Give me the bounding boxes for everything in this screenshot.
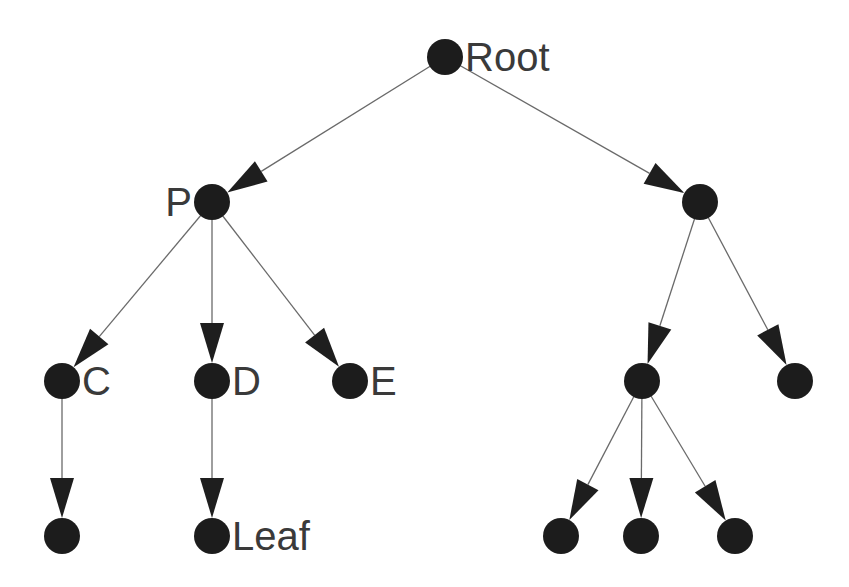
nodes-layer xyxy=(44,39,813,554)
node-c1 xyxy=(44,518,80,554)
node-label-c: C xyxy=(82,359,111,403)
edge-p-e xyxy=(212,202,315,335)
node-d xyxy=(194,363,230,399)
node-e xyxy=(332,363,368,399)
arrowhead-icon xyxy=(569,479,598,520)
node-r2 xyxy=(624,363,660,399)
node-r3 xyxy=(777,363,813,399)
arrowhead-icon xyxy=(695,480,726,520)
node-label-d: D xyxy=(232,359,261,403)
node-r5 xyxy=(623,518,659,554)
node-label-e: E xyxy=(370,359,397,403)
arrowhead-icon xyxy=(200,323,224,363)
arrowhead-icon xyxy=(227,161,267,192)
node-c xyxy=(44,363,80,399)
node-root xyxy=(427,39,463,75)
node-p xyxy=(194,184,230,220)
arrowhead-icon xyxy=(50,478,74,518)
edge-r2-r6 xyxy=(642,381,705,486)
tree-diagram: RootPCDELeaf xyxy=(0,0,849,587)
edges-layer xyxy=(50,57,787,521)
arrowhead-icon xyxy=(757,324,786,365)
arrowhead-icon xyxy=(629,478,653,518)
arrowhead-icon xyxy=(305,328,339,367)
node-r4 xyxy=(543,518,579,554)
node-leaf xyxy=(194,518,230,554)
arrowhead-icon xyxy=(644,163,685,193)
node-label-p: P xyxy=(165,180,192,224)
node-label-leaf: Leaf xyxy=(232,514,311,558)
edge-p-c xyxy=(99,202,212,337)
edge-root-p xyxy=(261,57,445,171)
edge-r1-r2 xyxy=(660,202,700,326)
node-label-root: Root xyxy=(465,35,550,79)
labels-layer: RootPCDELeaf xyxy=(82,35,550,558)
arrowhead-icon xyxy=(200,478,224,518)
arrowhead-icon xyxy=(648,322,672,364)
node-r6 xyxy=(717,518,753,554)
node-r1 xyxy=(682,184,718,220)
edge-r1-r3 xyxy=(700,202,768,330)
